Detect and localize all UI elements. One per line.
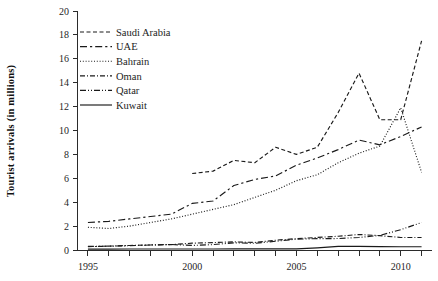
legend-label-saudi-arabia: Saudi Arabia xyxy=(116,27,171,38)
y-axis-title: Tourist arrivals (in millions) xyxy=(5,64,17,197)
y-tick-label: 14 xyxy=(59,77,69,88)
legend-label-oman: Oman xyxy=(116,71,142,82)
y-tick-label: 2 xyxy=(64,221,69,232)
y-tick-label: 12 xyxy=(59,101,69,112)
legend-label-uae: UAE xyxy=(116,41,138,52)
y-tick-label: 8 xyxy=(64,149,69,160)
chart-page: 02468101214161820 1995200020052010 Saudi… xyxy=(0,0,438,281)
y-tick-label: 18 xyxy=(59,29,69,40)
y-tick-label: 6 xyxy=(64,173,69,184)
legend-label-qatar: Qatar xyxy=(116,85,140,96)
legend-label-kuwait: Kuwait xyxy=(116,100,147,111)
x-tick-label: 2000 xyxy=(182,261,202,272)
y-tick-label: 0 xyxy=(64,245,69,256)
x-tick-label: 2010 xyxy=(391,261,411,272)
y-tick-label: 16 xyxy=(59,53,69,64)
x-tick-label: 2005 xyxy=(286,261,306,272)
y-tick-label: 4 xyxy=(64,197,69,208)
tourist-arrivals-line-chart: 02468101214161820 1995200020052010 Saudi… xyxy=(0,0,438,281)
legend-label-bahrain: Bahrain xyxy=(116,56,150,67)
y-tick-label: 10 xyxy=(59,125,69,136)
chart-background xyxy=(0,0,438,281)
y-tick-label: 20 xyxy=(59,6,69,17)
x-tick-label: 1995 xyxy=(78,261,98,272)
